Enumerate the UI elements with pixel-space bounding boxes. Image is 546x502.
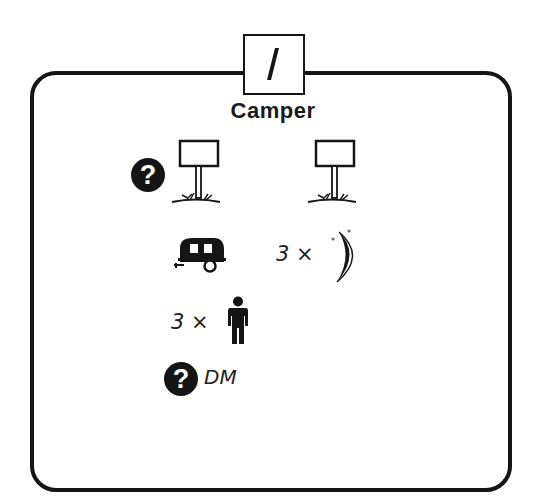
nights-multiplier: 3 × xyxy=(276,242,314,266)
card-frame xyxy=(30,71,512,492)
question-badge: ? xyxy=(131,158,165,192)
question-badge-dm: ? xyxy=(164,362,198,396)
card-number xyxy=(267,48,279,80)
svg-text:*: * xyxy=(331,237,335,246)
moon-stars-icon: * * xyxy=(327,226,363,286)
dm-label: DM xyxy=(204,365,237,389)
person-icon xyxy=(226,296,250,346)
people-multiplier: 3 × xyxy=(171,310,209,334)
card-title: Camper xyxy=(0,98,546,124)
signpost-icon-right xyxy=(306,138,358,208)
card-number-box: 1 xyxy=(243,34,305,95)
signpost-icon xyxy=(170,138,222,208)
camper-trailer-icon xyxy=(174,236,226,274)
svg-text:*: * xyxy=(347,229,351,238)
